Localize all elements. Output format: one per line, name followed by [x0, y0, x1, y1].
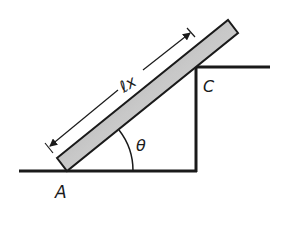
point-a-label: A — [54, 182, 67, 202]
diagram-canvas: ℓx θ C A — [0, 0, 289, 228]
dimension-tick-upper — [187, 28, 195, 37]
angle-arc — [119, 130, 133, 171]
length-dimension — [45, 28, 195, 153]
point-c-label: C — [203, 77, 215, 96]
angle-label: θ — [136, 136, 146, 155]
